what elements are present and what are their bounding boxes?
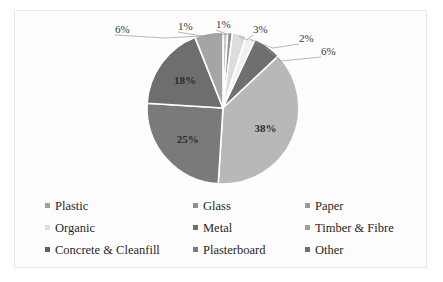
pie-slice-value-label: 18% [174,74,196,86]
legend-label-plastic: Plastic [55,200,88,213]
legend-swatch-organic [45,225,50,230]
chart-frame: 38%25%18%6%1%1%3%2%6% Plastic Glass Pape… [14,10,427,268]
chart-legend: Plastic Glass Paper Organic Metal [45,195,405,261]
pie-slice-value-label: 2% [299,32,314,44]
legend-item-plastic[interactable]: Plastic [45,200,193,213]
legend-swatch-glass [193,203,198,208]
legend-swatch-other [305,247,310,252]
legend-label-concrete-and-cleanfill: Concrete & Cleanfill [55,244,160,257]
legend-label-glass: Glass [203,200,231,213]
legend-swatch-concrete-and-cleanfill [45,247,50,252]
pie-slice-value-label: 1% [178,20,193,32]
legend-swatch-plasterboard [193,247,198,252]
legend-label-other: Other [315,244,343,257]
pie-slice-value-label: 38% [255,122,277,134]
legend-row: Organic Metal Timber & Fibre [45,217,405,239]
legend-row: Concrete & Cleanfill Plasterboard Other [45,239,405,261]
legend-label-plasterboard: Plasterboard [203,244,265,257]
legend-label-paper: Paper [315,200,343,213]
pie-slice-value-label: 1% [216,18,231,30]
legend-row: Plastic Glass Paper [45,195,405,217]
pie-chart-svg: 38%25%18%6%1%1%3%2%6% [15,11,428,191]
legend-swatch-plastic [45,203,50,208]
pie-slice-value-label: 25% [177,133,199,145]
legend-label-metal: Metal [203,222,232,235]
legend-item-other[interactable]: Other [305,244,343,257]
legend-item-timber-and-fibre[interactable]: Timber & Fibre [305,222,394,235]
legend-swatch-paper [305,203,310,208]
pie-slice-value-label: 6% [321,45,336,57]
legend-label-timber-and-fibre: Timber & Fibre [315,222,394,235]
legend-item-paper[interactable]: Paper [305,200,343,213]
legend-item-plasterboard[interactable]: Plasterboard [193,244,305,257]
pie-slice-value-label: 3% [253,23,268,35]
legend-label-organic: Organic [55,222,95,235]
legend-item-metal[interactable]: Metal [193,222,305,235]
legend-item-glass[interactable]: Glass [193,200,305,213]
pie-slice-value-label: 6% [115,23,130,35]
legend-item-concrete-and-cleanfill[interactable]: Concrete & Cleanfill [45,244,193,257]
legend-item-organic[interactable]: Organic [45,222,193,235]
legend-swatch-metal [193,225,198,230]
pie-chart-area: 38%25%18%6%1%1%3%2%6% [15,11,428,191]
legend-swatch-timber-and-fibre [305,225,310,230]
